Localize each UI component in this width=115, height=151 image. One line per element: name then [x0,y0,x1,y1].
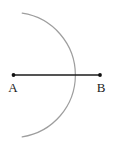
geometry-canvas [0,0,115,151]
diagram-container: A B [0,0,115,151]
point-b-label: B [97,81,106,94]
point-a-label: A [8,81,17,94]
point-a-dot [12,73,16,77]
point-b-dot [98,73,102,77]
